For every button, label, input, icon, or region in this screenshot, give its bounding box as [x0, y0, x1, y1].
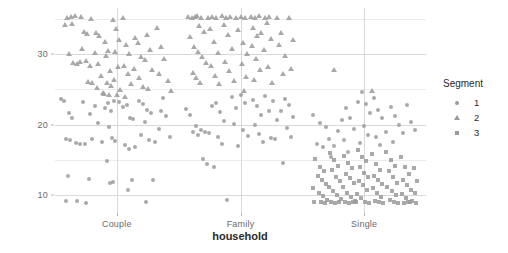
legend-item-3[interactable]: 3 [451, 125, 505, 140]
data-point-segment-2 [122, 94, 128, 99]
data-point-segment-3 [353, 199, 357, 203]
data-point-segment-2 [268, 36, 274, 41]
data-point-segment-1 [151, 178, 155, 182]
y-tick-mark [51, 53, 54, 54]
data-point-segment-3 [373, 199, 377, 203]
data-point-segment-1 [70, 116, 74, 120]
data-point-segment-2 [100, 90, 106, 95]
data-point-segment-3 [377, 200, 381, 204]
data-point-segment-2 [193, 75, 199, 80]
data-point-segment-1 [168, 135, 172, 139]
data-point-segment-2 [251, 77, 257, 82]
data-point-segment-2 [106, 92, 112, 97]
data-point-segment-3 [380, 182, 384, 186]
data-point-segment-3 [339, 197, 343, 201]
data-point-segment-1 [332, 144, 336, 148]
data-point-segment-3 [337, 200, 341, 204]
data-point-segment-2 [222, 59, 228, 64]
data-point-segment-3 [329, 200, 333, 204]
data-point-segment-3 [367, 201, 371, 205]
data-point-segment-2 [69, 21, 75, 26]
legend-item-2[interactable]: 2 [451, 110, 505, 125]
data-point-segment-3 [354, 200, 358, 204]
data-point-segment-2 [108, 83, 114, 88]
y-tick-mark [51, 195, 54, 196]
data-point-segment-2 [265, 64, 271, 69]
y-tick-label: 30 [8, 49, 48, 59]
data-point-segment-1 [287, 103, 291, 107]
data-point-segment-2 [201, 29, 207, 34]
data-point-segment-1 [230, 95, 234, 99]
data-point-segment-1 [321, 145, 325, 149]
data-point-segment-1 [340, 118, 344, 122]
data-point-segment-2 [226, 68, 232, 73]
data-point-segment-1 [64, 137, 68, 141]
gridline-major-vertical [117, 8, 118, 213]
data-point-segment-1 [159, 109, 163, 113]
data-point-segment-1 [141, 102, 145, 106]
data-point-segment-2 [212, 73, 218, 78]
data-point-segment-1 [145, 108, 149, 112]
data-point-segment-1 [283, 97, 287, 101]
data-point-segment-3 [351, 200, 355, 204]
data-point-segment-1 [384, 130, 388, 134]
data-point-segment-1 [346, 150, 350, 154]
x-tick-label-family: Family [201, 219, 281, 229]
data-point-segment-1 [210, 104, 214, 108]
data-point-segment-2 [149, 67, 155, 72]
data-point-segment-1 [66, 174, 70, 178]
y-tick-label: 20 [8, 120, 48, 130]
data-point-segment-1 [216, 135, 220, 139]
data-point-segment-1 [220, 142, 224, 146]
data-point-segment-1 [161, 96, 165, 100]
data-point-segment-1 [74, 141, 78, 145]
data-point-segment-1 [147, 138, 151, 142]
data-point-segment-3 [414, 201, 418, 205]
data-point-segment-2 [74, 61, 80, 66]
legend: Segment 123 [443, 78, 505, 140]
data-point-segment-1 [205, 162, 209, 166]
data-point-segment-3 [347, 201, 351, 205]
data-point-segment-1 [184, 107, 188, 111]
data-point-segment-1 [273, 137, 277, 141]
data-point-segment-2 [161, 56, 167, 61]
x-tick-label-single: Single [324, 219, 404, 229]
data-point-segment-2 [191, 44, 197, 49]
data-point-segment-3 [338, 179, 342, 183]
data-point-segment-1 [352, 127, 356, 131]
data-point-segment-1 [164, 114, 168, 118]
data-point-segment-2 [142, 57, 148, 62]
data-point-segment-1 [121, 105, 125, 109]
data-point-segment-2 [62, 22, 68, 27]
data-point-segment-1 [149, 111, 153, 115]
legend-item-1[interactable]: 1 [451, 95, 505, 110]
legend-item-label: 3 [474, 127, 479, 138]
data-point-segment-2 [165, 78, 171, 83]
data-point-segment-2 [102, 39, 108, 44]
data-point-segment-1 [127, 147, 131, 151]
data-point-segment-1 [336, 129, 340, 133]
data-point-segment-2 [135, 40, 141, 45]
data-point-segment-3 [413, 191, 417, 195]
data-point-segment-1 [409, 120, 413, 124]
data-point-segment-1 [246, 134, 250, 138]
data-point-segment-3 [376, 178, 380, 182]
data-point-segment-1 [342, 138, 346, 142]
data-point-segment-1 [131, 117, 135, 121]
data-point-segment-2 [123, 42, 129, 47]
data-point-segment-3 [331, 189, 335, 193]
data-point-segment-1 [324, 125, 328, 129]
x-tick-label-couple: Couple [77, 219, 157, 229]
data-point-segment-1 [389, 105, 393, 109]
data-point-segment-3 [312, 200, 316, 204]
data-point-segment-1 [401, 131, 405, 135]
data-point-segment-3 [412, 166, 416, 170]
data-point-segment-1 [87, 177, 91, 181]
data-point-segment-1 [191, 130, 195, 134]
data-point-segment-3 [345, 191, 349, 195]
data-point-segment-1 [368, 111, 372, 115]
data-point-segment-1 [393, 114, 397, 118]
data-point-segment-1 [84, 201, 88, 205]
data-point-segment-2 [203, 60, 209, 65]
data-point-segment-3 [320, 178, 324, 182]
